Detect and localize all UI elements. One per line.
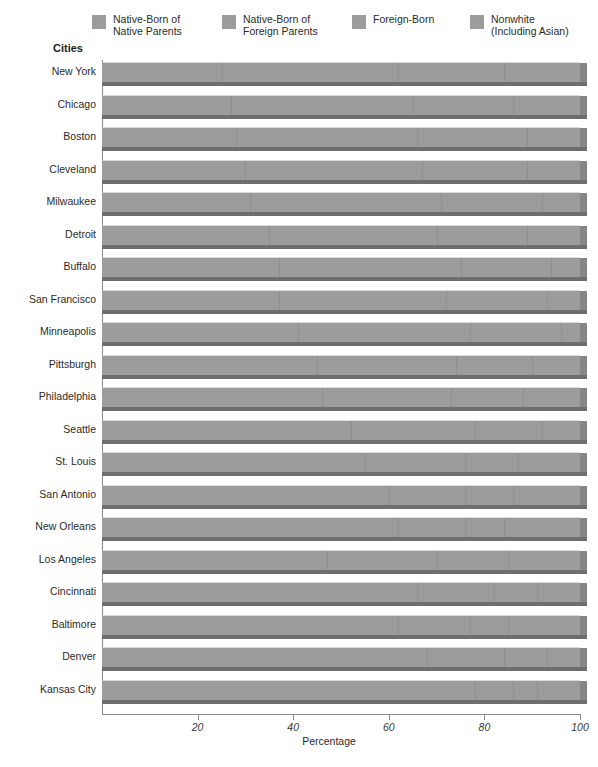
y-axis-category-label: Detroit bbox=[0, 228, 96, 240]
bar-depth-shadow bbox=[102, 147, 587, 151]
bar-segment-4 bbox=[542, 421, 581, 440]
bar-depth-shadow bbox=[102, 212, 587, 216]
bar-depth-cap bbox=[580, 291, 587, 310]
x-axis-line bbox=[102, 714, 580, 715]
bar-segment-4 bbox=[547, 291, 581, 310]
bar-segment-2 bbox=[245, 161, 423, 180]
bar-segment-2 bbox=[279, 258, 462, 277]
bar-depth-shadow bbox=[102, 537, 587, 541]
bar-segment-3 bbox=[437, 551, 510, 570]
stacked-bar bbox=[102, 648, 580, 667]
bar-depth-shadow bbox=[102, 180, 587, 184]
bar-segment-2 bbox=[398, 616, 471, 635]
bar-segment-4 bbox=[527, 161, 581, 180]
bar-segment-2 bbox=[322, 388, 452, 407]
bar-segment-4 bbox=[542, 193, 581, 212]
bar-segment-1 bbox=[102, 161, 245, 180]
bar-segment-3 bbox=[422, 161, 528, 180]
bar-depth-cap bbox=[580, 388, 587, 407]
stacked-bar bbox=[102, 63, 580, 82]
bar-depth-shadow bbox=[102, 570, 587, 574]
bar-depth-shadow bbox=[102, 82, 587, 86]
chart-bar-row: New York bbox=[102, 60, 580, 92]
stacked-bar bbox=[102, 323, 580, 342]
stacked-bar bbox=[102, 258, 580, 277]
bar-segment-4 bbox=[527, 128, 581, 147]
bar-segment-4 bbox=[532, 356, 581, 375]
bar-depth-cap bbox=[580, 226, 587, 245]
bar-segment-3 bbox=[413, 96, 514, 115]
bar-segment-3 bbox=[446, 291, 547, 310]
chart-bar-row: Detroit bbox=[102, 223, 580, 255]
y-axis-category-label: Buffalo bbox=[0, 260, 96, 272]
bar-depth-cap bbox=[580, 258, 587, 277]
chart-bar-row: Los Angeles bbox=[102, 548, 580, 580]
x-axis-tick-label: 40 bbox=[287, 721, 299, 733]
bar-segment-4 bbox=[504, 63, 581, 82]
bar-depth-shadow bbox=[102, 407, 587, 411]
y-axis-category-label: Chicago bbox=[0, 98, 96, 110]
bar-segment-1 bbox=[102, 551, 327, 570]
chart-bar-row: Pittsburgh bbox=[102, 353, 580, 385]
chart-bar-row: Minneapolis bbox=[102, 320, 580, 352]
legend-item-label: Native-Born of Foreign Parents bbox=[243, 14, 318, 37]
y-axis-title: Cities bbox=[53, 42, 83, 54]
legend-item-foreign-born: Foreign-Born bbox=[352, 14, 434, 29]
x-axis-title-label: Percentage bbox=[242, 735, 356, 747]
bar-depth-shadow bbox=[102, 115, 587, 119]
chart-bar-row: Seattle bbox=[102, 418, 580, 450]
y-axis-category-label: Baltimore bbox=[0, 618, 96, 630]
bar-segment-2 bbox=[351, 421, 476, 440]
bar-depth-cap bbox=[580, 648, 587, 667]
bar-segment-3 bbox=[456, 356, 533, 375]
x-axis-tick-label: 20 bbox=[192, 721, 204, 733]
stacked-bar bbox=[102, 551, 580, 570]
chart-bar-row: New Orleans bbox=[102, 515, 580, 547]
bar-depth-shadow bbox=[102, 635, 587, 639]
y-axis-category-label: New Orleans bbox=[0, 520, 96, 532]
bar-depth-cap bbox=[580, 583, 587, 602]
bar-segment-1 bbox=[102, 193, 250, 212]
chart-bar-row: Cleveland bbox=[102, 158, 580, 190]
bar-segment-3 bbox=[417, 128, 528, 147]
y-axis-category-label: Cleveland bbox=[0, 163, 96, 175]
bar-segment-2 bbox=[398, 518, 466, 537]
bar-segment-4 bbox=[527, 226, 581, 245]
bar-segment-4 bbox=[547, 648, 581, 667]
bar-segment-1 bbox=[102, 323, 298, 342]
bar-segment-3 bbox=[465, 453, 519, 472]
chart-bar-row: Chicago bbox=[102, 93, 580, 125]
bar-segment-4 bbox=[518, 453, 581, 472]
legend-item-label: Native-Born of Native Parents bbox=[113, 14, 182, 37]
bar-segment-4 bbox=[513, 96, 581, 115]
bar-segment-1 bbox=[102, 453, 365, 472]
bar-segment-4 bbox=[504, 518, 581, 537]
y-axis-category-label: Pittsburgh bbox=[0, 358, 96, 370]
bar-depth-cap bbox=[580, 616, 587, 635]
stacked-bar bbox=[102, 486, 580, 505]
x-axis-tick-label: 100 bbox=[571, 721, 589, 733]
bar-segment-2 bbox=[365, 453, 466, 472]
chart-legend: Native-Born of Native Parents Native-Bor… bbox=[0, 0, 598, 42]
stacked-bar bbox=[102, 616, 580, 635]
bar-segment-3 bbox=[465, 486, 514, 505]
bar-segment-2 bbox=[236, 128, 419, 147]
bar-segment-3 bbox=[441, 193, 542, 212]
stacked-bar bbox=[102, 128, 580, 147]
y-axis-category-label: St. Louis bbox=[0, 455, 96, 467]
bar-segment-2 bbox=[222, 63, 400, 82]
bar-depth-shadow bbox=[102, 440, 587, 444]
bar-segment-1 bbox=[102, 356, 317, 375]
y-axis-category-label: Cincinnati bbox=[0, 585, 96, 597]
bar-depth-cap bbox=[580, 161, 587, 180]
bar-depth-cap bbox=[580, 63, 587, 82]
bar-segment-4 bbox=[537, 583, 581, 602]
bar-segment-2 bbox=[269, 226, 437, 245]
stacked-bar bbox=[102, 388, 580, 407]
stacked-bar bbox=[102, 518, 580, 537]
bar-depth-shadow bbox=[102, 667, 587, 671]
bar-segment-1 bbox=[102, 128, 236, 147]
stacked-bar bbox=[102, 161, 580, 180]
bar-segment-4 bbox=[523, 388, 581, 407]
bar-segment-4 bbox=[551, 258, 581, 277]
